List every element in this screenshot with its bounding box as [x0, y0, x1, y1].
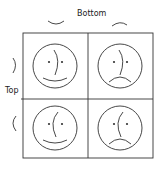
frown-arc-icon — [112, 23, 127, 26]
face-smile-nose-right — [33, 44, 77, 88]
face-grid-diagram: Bottom Top — [0, 0, 160, 171]
nose-left-icon — [13, 116, 16, 131]
smile-arc-icon — [48, 21, 64, 24]
grid-svg — [0, 0, 160, 171]
face-smile-nose-left — [33, 106, 77, 150]
nose-right-icon — [13, 58, 16, 73]
face-frown-nose-right — [98, 44, 142, 88]
face-frown-nose-left — [98, 106, 142, 150]
